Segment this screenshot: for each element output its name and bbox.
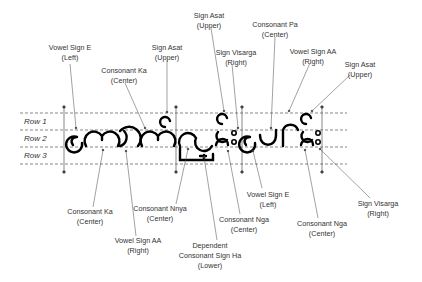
annotation-vowel-sign-aa-right-1: Vowel Sign AA(Right) (290, 47, 337, 67)
row-label-1: Row 1 (24, 117, 47, 126)
annotation-consonant-nga-center-1: Consonant Nga(Center) (219, 215, 269, 235)
row-label-2: Row 2 (24, 134, 47, 143)
myanmar-glyph-layout-diagram: Row 1 Row 2 Row 3 Vowel Sign E(Left) Con… (0, 0, 422, 282)
annotation-dependent-consonant-sign-ha-lower: DependentConsonant Sign Ha(Lower) (179, 241, 241, 271)
annotation-consonant-pa-center: Consonant Pa(Center) (252, 20, 298, 40)
annotation-vowel-sign-aa-right-2: Vowel Sign AA(Right) (115, 236, 162, 256)
annotation-sign-asat-upper-2: Sign Asat(Upper) (194, 11, 224, 31)
myanmar-glyphs (66, 114, 313, 160)
annotation-sign-visarga-right-2: Sign Visarga(Right) (358, 199, 399, 219)
annotation-consonant-nga-center-2: Consonant Nga(Center) (297, 219, 347, 239)
annotation-sign-asat-upper-1: Sign Asat(Upper) (152, 43, 182, 63)
annotation-vowel-sign-e-left-2: Vowel Sign E(Left) (247, 190, 289, 210)
annotation-consonant-ka-center-1: Consonant Ka(Center) (101, 66, 147, 86)
row-label-3: Row 3 (24, 151, 47, 160)
annotation-consonant-ka-center-2: Consonant Ka(Center) (67, 207, 113, 227)
annotation-sign-asat-upper-3: Sign Asat(Upper) (345, 60, 375, 80)
annotation-vowel-sign-e-left-1: Vowel Sign E(Left) (49, 43, 91, 63)
annotation-sign-visarga-right-1: Sign Visarga(Right) (216, 48, 257, 68)
annotation-consonant-nnya-center: Consonant Nnya(Center) (133, 204, 187, 224)
